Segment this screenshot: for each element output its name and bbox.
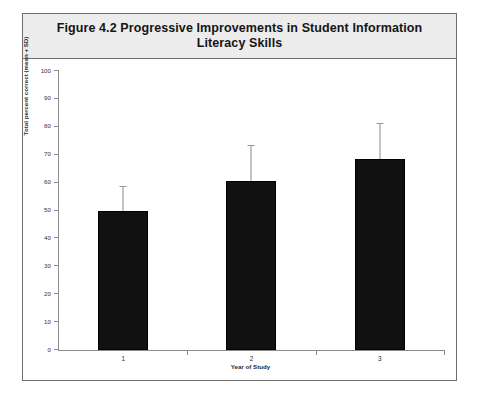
error-bar-cap [376,123,383,124]
bar[interactable] [355,159,405,350]
y-axis-tick-label: 90 [44,94,51,101]
x-axis-tick [444,350,445,355]
y-axis-tick-label: 70 [44,150,51,157]
bar-group: 3 [316,71,444,350]
chart-title-line-1: Figure 4.2 Progressive Improvements in S… [57,21,423,35]
plot-region: Total percent correct (mean + SD) 010203… [23,59,456,380]
y-axis-tick-label: 0 [48,346,51,353]
x-axis-tick [316,350,317,355]
chart-axes: 0102030405060708090100123 Year of Study [58,71,443,363]
y-axis-tick-label: 20 [44,290,51,297]
bar[interactable] [98,211,148,351]
y-axis-tick-label: 60 [44,178,51,185]
y-axis-title: Total percent correct (mean + SD) [22,1,29,171]
y-axis-tick-label: 30 [44,262,51,269]
y-axis-tick-label: 10 [44,318,51,325]
chart-title-line-2: Literacy Skills [197,36,283,50]
y-axis-tick-label: 50 [44,206,51,213]
y-axis-tick-label: 100 [41,67,51,74]
plot-area: 0102030405060708090100123 [58,71,444,351]
x-axis-title: Year of Study [58,363,443,370]
x-axis-tick-label: 2 [250,355,254,362]
error-bar-cap [120,186,127,187]
x-axis-tick-label: 3 [378,355,382,362]
y-axis-tick-label: 40 [44,234,51,241]
bar-group: 1 [59,71,187,350]
x-axis-tick [187,350,188,355]
y-axis-tick-label: 80 [44,122,51,129]
bar-group: 2 [187,71,315,350]
chart-title: Figure 4.2 Progressive Improvements in S… [43,21,437,51]
figure-title-band: Figure 4.2 Progressive Improvements in S… [23,14,456,59]
figure-frame: Figure 4.2 Progressive Improvements in S… [22,13,457,381]
error-bar-cap [248,145,255,146]
x-axis-tick-label: 1 [121,355,125,362]
bar[interactable] [226,181,276,350]
